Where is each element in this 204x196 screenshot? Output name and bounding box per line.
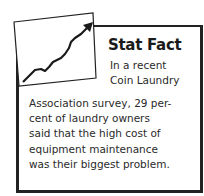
stat-fact-body: Association survey, 29 per- cent of laun… <box>29 96 199 172</box>
body-line: equipment maintenance <box>29 142 199 157</box>
body-line: Association survey, 29 per- <box>29 96 199 111</box>
body-line: was their biggest problem. <box>29 157 199 172</box>
lead-line: In a recent <box>110 58 179 73</box>
stat-fact-lead: In a recent Coin Laundry <box>110 58 179 88</box>
rising-chart-icon <box>13 12 97 88</box>
body-line: said that the high cost of <box>29 126 199 141</box>
stat-fact-title: Stat Fact <box>108 36 181 54</box>
body-line: cent of laundry owners <box>29 111 199 126</box>
lead-line: Coin Laundry <box>110 73 179 88</box>
